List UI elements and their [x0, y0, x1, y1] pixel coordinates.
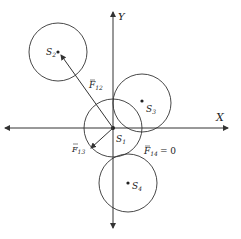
f13-label: F13 — [71, 144, 85, 155]
svg-text:F12: F12 — [88, 80, 103, 91]
s2-center-dot — [56, 50, 59, 53]
s3-center-dot — [140, 99, 143, 102]
svg-text:F13: F13 — [71, 145, 85, 155]
x-axis-label: X — [215, 111, 225, 124]
s4-label: S4 — [132, 181, 142, 192]
f14-label: F14= 0 — [143, 146, 176, 157]
s2-label: S2 — [46, 47, 56, 58]
y-axis-label: Y — [118, 11, 126, 22]
f12-label: F12 — [88, 80, 103, 91]
force-f12-arrow — [61, 55, 113, 128]
s1-label: S1 — [116, 134, 126, 145]
s3-label: S3 — [146, 104, 156, 115]
sphere-force-diagram: X Y S1 S2 S3 S4 F12 F13 F14= 0 — [0, 0, 241, 239]
force-f13-arrow — [91, 128, 113, 148]
s4-center-dot — [126, 181, 129, 184]
svg-text:F14= 0: F14= 0 — [143, 146, 176, 157]
